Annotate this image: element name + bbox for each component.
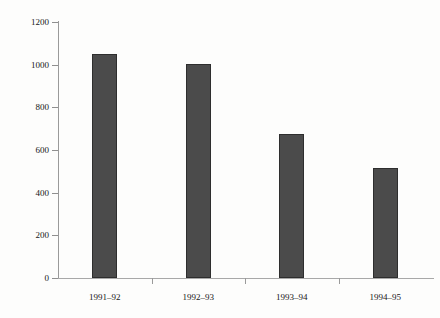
- y-tick-label: 200: [36, 231, 50, 240]
- y-tick-label: 800: [36, 103, 50, 112]
- bar: [279, 134, 304, 278]
- y-tick-label: 1200: [31, 18, 49, 27]
- x-tick-mark: [245, 278, 246, 284]
- y-tick-mark: [52, 65, 58, 66]
- x-tick-label: 1993–94: [276, 292, 308, 302]
- y-tick-mark: [52, 150, 58, 151]
- x-tick-label: 1991–92: [89, 292, 121, 302]
- y-tick-mark: [52, 107, 58, 108]
- x-tick-label: 1992–93: [183, 292, 215, 302]
- bar: [92, 54, 117, 278]
- y-tick-mark: [52, 22, 58, 23]
- bar: [373, 168, 398, 278]
- bar-chart-figure: £ million 020040060080010001200 1991–921…: [0, 0, 440, 318]
- y-tick-label: 600: [36, 146, 50, 155]
- x-axis-line: [58, 278, 434, 279]
- x-tick-mark: [339, 278, 340, 284]
- y-tick-mark: [52, 235, 58, 236]
- y-tick-label: 1000: [31, 60, 49, 69]
- x-tick-label: 1994–95: [370, 292, 402, 302]
- y-tick-label: 400: [36, 188, 50, 197]
- bar: [186, 64, 211, 278]
- x-tick-mark: [152, 278, 153, 284]
- plot-area: 020040060080010001200: [58, 22, 432, 278]
- y-tick-mark: [52, 193, 58, 194]
- y-tick-label: 0: [45, 274, 50, 283]
- y-tick-mark: [52, 278, 58, 279]
